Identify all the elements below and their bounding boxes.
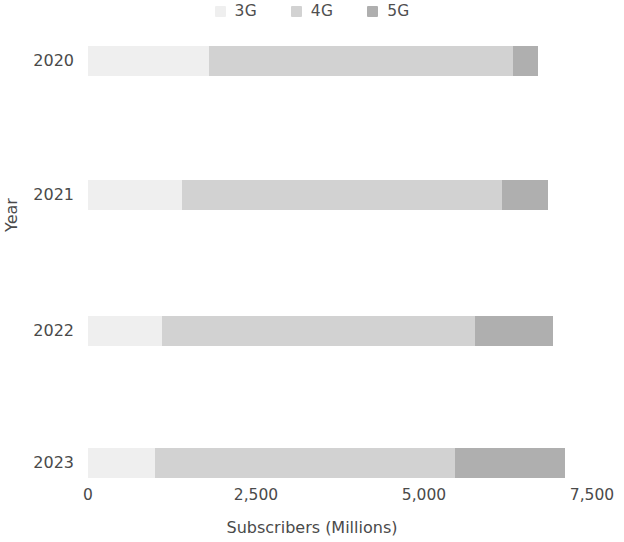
bar-segment-4g[interactable]	[155, 448, 455, 478]
legend-item-5g[interactable]: 5G	[367, 4, 409, 20]
bar-row: 2023	[88, 448, 565, 478]
x-tick-label: 2,500	[234, 486, 278, 504]
legend-item-4g[interactable]: 4G	[291, 4, 333, 20]
bar-segment-5g[interactable]	[513, 46, 538, 76]
legend-swatch-4g	[291, 6, 302, 17]
y-tick-label: 2020	[33, 46, 74, 76]
legend-item-3g[interactable]: 3G	[215, 4, 257, 20]
bar-segment-4g[interactable]	[209, 46, 513, 76]
legend-label-4g: 4G	[311, 4, 333, 20]
bar-segment-3g[interactable]	[88, 180, 182, 210]
y-tick-label: 2021	[33, 180, 74, 210]
legend-label-3g: 3G	[235, 4, 257, 20]
y-tick-label: 2023	[33, 448, 74, 478]
bar-segment-5g[interactable]	[475, 316, 553, 346]
legend-label-5g: 5G	[387, 4, 409, 20]
bar-segment-3g[interactable]	[88, 46, 209, 76]
x-axis-ticks: 02,5005,0007,500	[88, 486, 592, 508]
y-tick-label: 2022	[33, 316, 74, 346]
x-tick-label: 7,500	[570, 486, 614, 504]
bar-segment-4g[interactable]	[162, 316, 475, 346]
bar-row: 2020	[88, 46, 538, 76]
plot-area: 2020202120222023	[88, 34, 592, 484]
chart-legend: 3G 4G 5G	[0, 4, 624, 20]
x-axis-title: Subscribers (Millions)	[0, 518, 624, 537]
bar-segment-3g[interactable]	[88, 448, 155, 478]
bar-segment-4g[interactable]	[182, 180, 502, 210]
stacked-bar-chart: 3G 4G 5G 2020202120222023 02,5005,0007,5…	[0, 0, 624, 542]
legend-swatch-5g	[367, 6, 378, 17]
x-tick-label: 0	[83, 486, 93, 504]
legend-swatch-3g	[215, 6, 226, 17]
bar-segment-5g[interactable]	[502, 180, 548, 210]
bar-row: 2022	[88, 316, 553, 346]
y-axis-title: Year	[2, 198, 21, 232]
x-tick-label: 5,000	[402, 486, 446, 504]
bar-segment-3g[interactable]	[88, 316, 162, 346]
bar-segment-5g[interactable]	[455, 448, 565, 478]
bar-row: 2021	[88, 180, 548, 210]
